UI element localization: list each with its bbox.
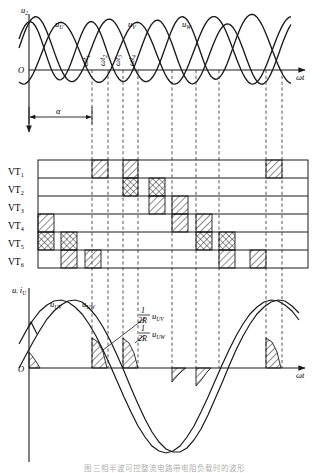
annotation-uUW: 1 2R uUW: [135, 324, 166, 343]
annotation-uUW-var: uUW: [152, 329, 166, 340]
bottom-waveform-panel: u, iU O ωt uUV uUW 1 2R uUV 1 2R uUW: [12, 285, 305, 462]
current-pulse-5: [266, 338, 281, 368]
bottom-y-axis-label: u, iU: [12, 285, 27, 296]
gate-row-VT4: [38, 214, 212, 232]
curve-uUW: [19, 300, 299, 452]
time-marker-wt2: ωt2: [97, 55, 108, 66]
firing-angle-label: α: [56, 106, 61, 116]
top-y-axis-label: u2: [21, 5, 28, 16]
waveform-diagram: uU uV uW u2 O ωt ωt1 ωt2 ωt3 ωt4 α: [0, 0, 329, 473]
current-pulse-3: [172, 368, 186, 382]
phase-label-uU: uU: [55, 19, 64, 30]
curve-uUV: [19, 300, 299, 453]
curve-label-uUW: uUW: [82, 299, 96, 310]
current-pulse-4: [196, 368, 211, 386]
figure-caption: 图 三相半波可控整流电路带电阻负载时的波形: [0, 463, 329, 473]
bottom-origin-label: O: [18, 364, 24, 374]
gate-row-VT1: [92, 160, 282, 178]
gate-label-VT2: VT2: [8, 185, 24, 196]
firing-angle-marker: α: [29, 106, 92, 124]
gate-row-VT2: [123, 178, 165, 196]
current-pulse-0: [29, 352, 40, 368]
time-marker-wt3: ωt3: [112, 55, 123, 66]
gate-row-VT5: [38, 232, 235, 250]
phase-label-uV: uV: [128, 19, 136, 30]
gate-label-VT4: VT4: [8, 221, 24, 232]
annotation-uUW-den: 2R: [138, 334, 147, 343]
top-x-axis-label: ωt: [296, 72, 305, 82]
bottom-x-axis-label: ωt: [296, 370, 305, 380]
annotation-uUV: 1 2R uUV: [103, 306, 164, 350]
current-pulse-areas: [29, 338, 281, 386]
gate-label-VT1: VT1: [8, 167, 24, 178]
time-marker-wt4: ωt4: [126, 55, 137, 66]
gate-row-VT6: [61, 250, 266, 268]
top-origin-label: O: [18, 65, 24, 75]
annotation-uUV-var: uUV: [152, 311, 164, 322]
top-waveform-panel: uU uV uW u2 O ωt ωt1 ωt2 ωt3 ωt4 α: [18, 5, 305, 132]
gate-pulse-panel: VT1 VT2 VT3 VT4 VT5 VT6: [8, 160, 308, 268]
gate-label-VT6: VT6: [8, 257, 24, 268]
gate-label-VT3: VT3: [8, 203, 24, 214]
annotation-uUV-text: 1: [141, 306, 145, 315]
gate-label-VT5: VT5: [8, 239, 24, 250]
gate-row-VT3: [149, 196, 188, 214]
annotation-uUW-num: 1: [141, 324, 145, 333]
figure-container: uU uV uW u2 O ωt ωt1 ωt2 ωt3 ωt4 α: [0, 0, 329, 473]
